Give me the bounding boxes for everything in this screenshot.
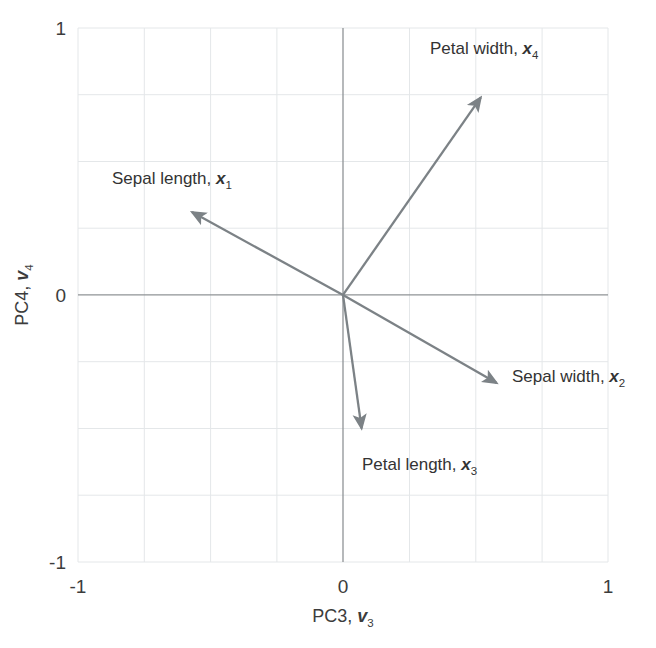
x-tick-label-left: -1 (70, 576, 87, 597)
annotation-sepal-length: Sepal length, x1 (112, 169, 232, 191)
annotation-petal-width: Petal width, x4 (430, 39, 539, 61)
chart-svg: Sepal length, x1 Petal width, x4 Sepal w… (0, 0, 656, 648)
x-tick-label-right: 1 (603, 576, 614, 597)
y-tick-label-bottom: -1 (49, 552, 66, 573)
chart-background (0, 0, 656, 648)
pca-loadings-chart: Sepal length, x1 Petal width, x4 Sepal w… (0, 0, 656, 648)
annotation-petal-length: Petal length, x3 (362, 455, 477, 477)
y-tick-label-top: 1 (55, 18, 66, 39)
x-tick-label-zero: 0 (338, 576, 349, 597)
annotation-sepal-width: Sepal width, x2 (512, 367, 625, 389)
x-axis-title: PC3, v3 (312, 606, 373, 629)
y-tick-label-zero: 0 (55, 285, 66, 306)
y-axis-title: PC4, v4 (12, 264, 35, 326)
